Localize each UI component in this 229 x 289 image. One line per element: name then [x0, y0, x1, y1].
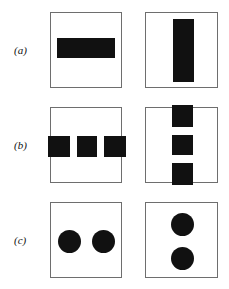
square-shape: [104, 136, 126, 157]
row-label-b: (b): [14, 139, 27, 151]
circle-shape: [92, 230, 115, 253]
panel-a-left: [50, 12, 122, 88]
panel-a-right: [145, 12, 218, 88]
square-shape: [172, 135, 193, 155]
panel-b-left: [50, 107, 122, 183]
row-label-c: (c): [14, 234, 26, 246]
square-shape: [77, 136, 97, 157]
square-shape: [172, 163, 193, 185]
square-shape: [172, 105, 193, 127]
square-shape: [48, 136, 70, 157]
horizontal-bar-shape: [57, 38, 115, 58]
panel-c-left: [50, 202, 122, 278]
circle-shape: [171, 213, 194, 236]
row-label-a: (a): [14, 44, 27, 56]
panel-b-right: [145, 107, 218, 183]
panel-c-right: [145, 202, 218, 278]
figure-panel-grid: (a) (b) (c): [0, 0, 229, 289]
circle-shape: [58, 230, 81, 253]
vertical-bar-shape: [173, 19, 194, 82]
circle-shape: [171, 247, 194, 270]
